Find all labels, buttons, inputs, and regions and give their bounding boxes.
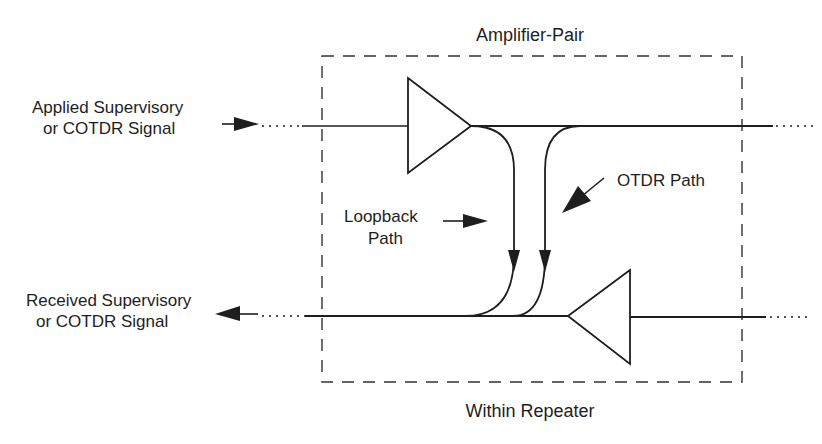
applied-signal-label-line1: Applied Supervisory	[32, 97, 183, 118]
received-signal-arrow-icon	[215, 306, 240, 321]
return-fiber-line	[262, 316, 810, 317]
otdr-path-label: OTDR Path	[617, 170, 705, 191]
otdr-path-line	[513, 126, 580, 316]
loopback-path-label-line2: Path	[368, 228, 403, 249]
title-within-repeater: Within Repeater	[430, 401, 630, 422]
otdr-label-arrow-icon	[562, 186, 591, 213]
loopback-path-label-line1: Loopback	[344, 206, 418, 227]
forward-amplifier-icon	[408, 78, 471, 173]
return-amplifier-icon	[568, 270, 630, 364]
loopback-arrow-icon	[508, 250, 520, 272]
applied-signal-arrow-icon	[234, 117, 259, 131]
loopback-label-arrow-icon	[463, 214, 488, 228]
applied-signal-label-line2: or COTDR Signal	[43, 118, 175, 139]
title-amplifier-pair: Amplifier-Pair	[440, 25, 620, 46]
received-signal-label-line2: or COTDR Signal	[36, 311, 168, 332]
received-signal-label-line1: Received Supervisory	[26, 290, 191, 311]
otdr-arrow-icon	[539, 250, 551, 272]
